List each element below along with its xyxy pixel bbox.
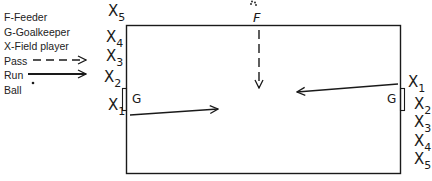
left-goalkeeper-label: G (132, 92, 141, 106)
left-player-x3: X3 (106, 47, 123, 69)
left-player-x2: X2 (104, 68, 121, 90)
right-player-x1: X1 (408, 73, 425, 95)
feeder-label: F (253, 10, 261, 25)
field-rectangle (127, 26, 401, 174)
right-x1-run-arrow (297, 84, 398, 92)
feeder-balls-icon (250, 1, 257, 6)
legend-ball-icon (32, 82, 35, 85)
left-player-x5: X5 (108, 2, 125, 24)
right-goalkeeper-label: G (387, 92, 396, 106)
right-team-players: X1 X2 X3 X4 X5 (408, 73, 431, 172)
left-x1-run-arrow (130, 109, 218, 115)
diagram-canvas: F G G X5 X4 X3 X2 X1 X1 X2 X3 X4 X5 (0, 0, 432, 181)
